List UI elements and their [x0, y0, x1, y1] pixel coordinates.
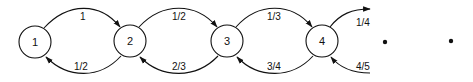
node-1: 1	[19, 26, 51, 58]
node-3-label: 3	[224, 35, 230, 47]
continuation-dot-2	[449, 39, 453, 43]
node-4-label: 4	[319, 35, 325, 47]
edge-label-4-3: 3/4	[267, 61, 281, 72]
edge-label-1-2: 1	[80, 11, 86, 22]
edge-label-next-4: 4/5	[356, 61, 370, 72]
edge-label-2-3: 1/2	[172, 11, 186, 22]
markov-chain-diagram: 1 1/2 1/2 2/3 1/3 3/4 1/4 4/5 1 2 3 4	[0, 0, 473, 82]
edge-label-3-4: 1/3	[267, 11, 281, 22]
edge-label-2-1: 1/2	[74, 61, 88, 72]
node-3: 3	[211, 25, 243, 57]
continuation-dot-1	[383, 40, 387, 44]
edge-label-4-next: 1/4	[356, 17, 370, 28]
node-4: 4	[306, 25, 338, 57]
node-2-label: 2	[127, 35, 133, 47]
node-1-label: 1	[32, 36, 38, 48]
node-2: 2	[114, 25, 146, 57]
edge-label-3-2: 2/3	[172, 61, 186, 72]
